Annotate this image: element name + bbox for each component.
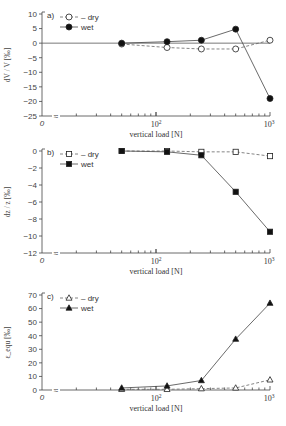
- y-tick-label: 30: [28, 345, 37, 354]
- y-axis-label: dz / z [‰]: [3, 187, 12, 218]
- legend-label-wet: wet: [80, 304, 94, 313]
- x-tick-label: 102: [151, 256, 162, 266]
- y-tick-label: −6: [28, 198, 38, 207]
- y-tick-label: 20: [28, 359, 37, 368]
- legend-label-wet: wet: [80, 23, 94, 32]
- y-tick-label: −5: [28, 54, 38, 63]
- axis-break-icon: ≈: [54, 386, 59, 395]
- x-tick-label: 102: [151, 119, 162, 129]
- y-tick-label: 10: [28, 10, 37, 19]
- y-tick-label: 0: [33, 386, 38, 395]
- x-axis-label: vertical load [N]: [130, 404, 183, 413]
- panel-tag: a): [47, 11, 54, 20]
- y-tick-label: −25: [23, 112, 37, 121]
- x-tick-label: 103: [264, 119, 275, 129]
- legend: – drywet: [60, 294, 99, 313]
- legend-label-wet: wet: [80, 160, 94, 169]
- x-tick-label: 103: [264, 393, 275, 403]
- x-tick-label: 102: [151, 393, 162, 403]
- x-axis-label: vertical load [N]: [130, 267, 183, 276]
- y-tick-label: 60: [28, 304, 37, 313]
- legend-label-dry: – dry: [81, 150, 99, 159]
- x-tick-label: 0: [40, 119, 45, 128]
- y-tick-label: 40: [28, 332, 37, 341]
- y-tick-label: 50: [28, 318, 37, 327]
- y-tick-label: −4: [28, 181, 38, 190]
- x-tick-label: 0: [40, 256, 45, 265]
- x-axis-label: vertical load [N]: [130, 130, 183, 139]
- y-axis-label: dV / V [‰]: [3, 48, 12, 82]
- series-dry: [119, 148, 273, 158]
- series-dry: [119, 377, 273, 392]
- y-tick-label: −15: [23, 83, 37, 92]
- legend: – drywet: [60, 150, 99, 169]
- y-tick-label: −20: [23, 97, 37, 106]
- y-tick-label: −12: [23, 249, 37, 258]
- y-tick-label: 0: [33, 39, 38, 48]
- panel-tag: c): [47, 292, 54, 301]
- x-tick-label: 0: [40, 393, 45, 402]
- panel-c: 706050403020100≈0102103vertical load [N]…: [3, 291, 275, 413]
- y-axis-label: ε_equ [‰]: [3, 326, 12, 358]
- series-dry: [119, 37, 273, 52]
- y-tick-label: −2: [28, 164, 38, 173]
- figure: 1050−5−10−15−20−25≈0102103vertical load …: [0, 0, 286, 426]
- axis-break-icon: ≈: [54, 249, 59, 258]
- series-wet: [119, 300, 273, 390]
- y-tick-label: 10: [28, 372, 37, 381]
- legend-label-dry: – dry: [81, 294, 99, 303]
- y-tick-label: 70: [28, 291, 37, 300]
- legend-label-dry: – dry: [81, 13, 99, 22]
- x-tick-label: 103: [264, 256, 275, 266]
- panel-a: 1050−5−10−15−20−25≈0102103vertical load …: [3, 10, 275, 139]
- panel-tag: b): [47, 148, 54, 157]
- y-tick-label: −10: [23, 232, 37, 241]
- y-tick-label: −10: [23, 68, 37, 77]
- series-wet: [119, 148, 273, 234]
- axis-break-icon: ≈: [54, 112, 59, 121]
- y-tick-label: −8: [28, 215, 38, 224]
- y-tick-label: 0: [33, 147, 38, 156]
- y-tick-label: 5: [33, 24, 38, 33]
- panel-b: 0−2−4−6−8−10−12≈0102103vertical load [N]…: [3, 147, 275, 276]
- series-wet: [119, 26, 273, 101]
- legend: – drywet: [60, 13, 99, 32]
